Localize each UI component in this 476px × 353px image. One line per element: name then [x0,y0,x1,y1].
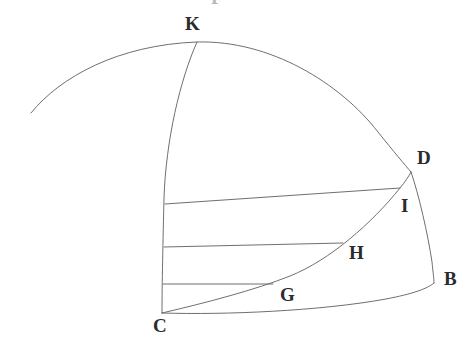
point-label-b: B [444,269,457,288]
chord-top-to-i [165,188,400,204]
point-label-h: H [349,243,364,262]
chord-mid-to-h [164,243,343,247]
outer-dome-arc [31,42,411,172]
radius-arc-k-to-c [162,42,197,313]
point-label-i: I [401,196,408,215]
chord-layer [163,188,400,284]
point-label-k: K [185,14,200,33]
point-label-c: C [153,316,167,335]
geometry-figure: F KDIBHGC [0,0,476,353]
curve-layer [31,42,434,314]
arc-d-to-b [411,172,434,283]
figure-canvas [0,0,476,353]
point-label-d: D [417,148,431,167]
point-label-g: G [280,285,295,304]
arc-c-to-b-base [162,283,434,313]
